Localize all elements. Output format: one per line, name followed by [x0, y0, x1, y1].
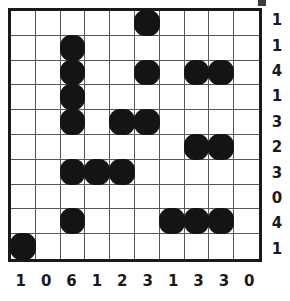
grid-cells-container[interactable] [11, 11, 259, 259]
grid-cell[interactable] [11, 135, 36, 160]
grid-cell[interactable] [135, 209, 160, 234]
grid-cell[interactable] [61, 11, 86, 36]
grid-cell[interactable] [110, 234, 135, 259]
grid-cell[interactable] [135, 185, 160, 210]
grid-cell[interactable] [36, 61, 61, 86]
grid-cell[interactable] [61, 85, 86, 110]
grid-cell[interactable] [85, 185, 110, 210]
grid-cell[interactable] [110, 209, 135, 234]
grid-cell[interactable] [61, 36, 86, 61]
grid-cell[interactable] [234, 61, 259, 86]
grid-cell[interactable] [61, 61, 86, 86]
grid-cell[interactable] [209, 234, 234, 259]
grid-cell[interactable] [209, 135, 234, 160]
grid-cell[interactable] [234, 160, 259, 185]
grid-cell[interactable] [11, 61, 36, 86]
grid-cell[interactable] [234, 85, 259, 110]
grid-cell[interactable] [135, 36, 160, 61]
grid-cell[interactable] [36, 234, 61, 259]
grid-cell[interactable] [85, 209, 110, 234]
grid-cell[interactable] [135, 234, 160, 259]
grid-cell[interactable] [11, 209, 36, 234]
grid-cell[interactable] [209, 85, 234, 110]
grid-cell[interactable] [185, 36, 210, 61]
grid-cell[interactable] [110, 110, 135, 135]
grid-cell[interactable] [209, 11, 234, 36]
grid-cell[interactable] [234, 135, 259, 160]
grid-cell[interactable] [135, 85, 160, 110]
grid-cell[interactable] [61, 160, 86, 185]
grid-cell[interactable] [36, 110, 61, 135]
grid-cell[interactable] [61, 110, 86, 135]
grid-cell[interactable] [160, 36, 185, 61]
grid-cell[interactable] [135, 110, 160, 135]
grid-cell[interactable] [110, 61, 135, 86]
grid-cell[interactable] [160, 11, 185, 36]
grid-cell[interactable] [85, 135, 110, 160]
grid-cell[interactable] [85, 110, 110, 135]
grid-cell[interactable] [110, 185, 135, 210]
grid-cell[interactable] [85, 160, 110, 185]
grid-cell[interactable] [185, 160, 210, 185]
grid-cell[interactable] [11, 185, 36, 210]
grid-cell[interactable] [36, 160, 61, 185]
grid-cell[interactable] [11, 234, 36, 259]
grid-cell[interactable] [209, 36, 234, 61]
grid-cell[interactable] [209, 209, 234, 234]
grid-cell[interactable] [11, 85, 36, 110]
grid-cell[interactable] [135, 11, 160, 36]
grid-cell[interactable] [185, 110, 210, 135]
grid-cell[interactable] [36, 36, 61, 61]
grid-cell[interactable] [209, 61, 234, 86]
grid-cell[interactable] [234, 11, 259, 36]
grid-cell[interactable] [11, 36, 36, 61]
grid-cell[interactable] [160, 185, 185, 210]
grid-cell[interactable] [36, 185, 61, 210]
grid-cell[interactable] [61, 209, 86, 234]
grid-cell[interactable] [234, 234, 259, 259]
grid-cell[interactable] [185, 135, 210, 160]
grid-cell[interactable] [85, 85, 110, 110]
grid-cell[interactable] [135, 160, 160, 185]
grid-cell[interactable] [11, 110, 36, 135]
grid-cell[interactable] [160, 209, 185, 234]
grid-cell[interactable] [36, 85, 61, 110]
grid-cell[interactable] [234, 185, 259, 210]
grid-cell[interactable] [85, 61, 110, 86]
grid-cell[interactable] [160, 61, 185, 86]
grid-cell[interactable] [11, 160, 36, 185]
grid-cell[interactable] [185, 11, 210, 36]
grid-cell[interactable] [234, 209, 259, 234]
grid-cell[interactable] [160, 135, 185, 160]
grid-cell[interactable] [61, 185, 86, 210]
grid-cell[interactable] [85, 36, 110, 61]
grid-cell[interactable] [36, 11, 61, 36]
grid-cell[interactable] [135, 61, 160, 86]
grid-cell[interactable] [110, 85, 135, 110]
grid-cell[interactable] [160, 160, 185, 185]
grid-cell[interactable] [110, 135, 135, 160]
grid-cell[interactable] [160, 85, 185, 110]
grid-cell[interactable] [110, 36, 135, 61]
grid-cell[interactable] [61, 135, 86, 160]
grid-cell[interactable] [185, 234, 210, 259]
grid-cell[interactable] [234, 36, 259, 61]
grid-cell[interactable] [185, 209, 210, 234]
grid-cell[interactable] [135, 135, 160, 160]
grid-cell[interactable] [85, 234, 110, 259]
grid-cell[interactable] [209, 185, 234, 210]
grid-cell[interactable] [11, 11, 36, 36]
grid-cell[interactable] [234, 110, 259, 135]
grid-cell[interactable] [61, 234, 86, 259]
grid-cell[interactable] [160, 234, 185, 259]
grid-cell[interactable] [185, 85, 210, 110]
grid-cell[interactable] [185, 61, 210, 86]
grid-cell[interactable] [36, 209, 61, 234]
grid-cell[interactable] [160, 110, 185, 135]
grid-cell[interactable] [85, 11, 110, 36]
grid-cell[interactable] [185, 185, 210, 210]
grid-cell[interactable] [36, 135, 61, 160]
grid-cell[interactable] [110, 160, 135, 185]
grid-cell[interactable] [209, 160, 234, 185]
grid-cell[interactable] [110, 11, 135, 36]
